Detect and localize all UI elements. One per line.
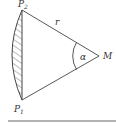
radius-line-lower: [22, 56, 99, 100]
label-m: M: [102, 51, 113, 61]
label-p2: P2: [17, 0, 28, 10]
label-p1: P1: [13, 104, 24, 115]
label-radius: r: [55, 17, 60, 27]
label-angle: α: [80, 52, 86, 62]
angle-arc: [73, 43, 77, 70]
circular-segment-diagram: P2 P1 M r α: [0, 0, 116, 129]
radius-line-upper: [22, 10, 99, 56]
